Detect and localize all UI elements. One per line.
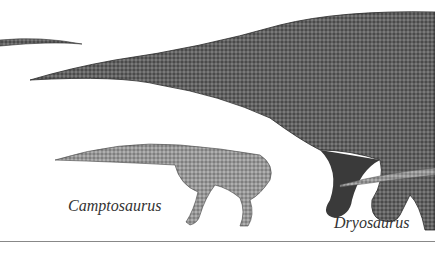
camptosaurus-label: Camptosaurus [68, 197, 161, 215]
dinosaur-illustration: Camptosaurus Dryosaurus [0, 0, 435, 253]
dryosaurus-label: Dryosaurus [334, 214, 410, 232]
bottom-rule [0, 241, 435, 242]
sauropod-tail-tip [0, 39, 82, 46]
